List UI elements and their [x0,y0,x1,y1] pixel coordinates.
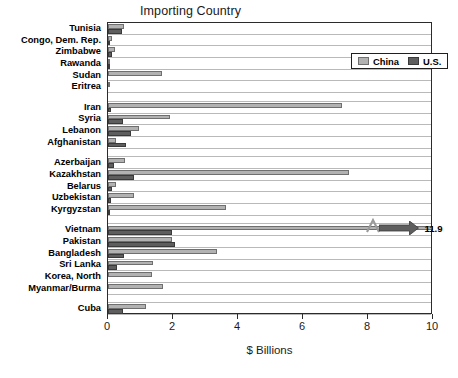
chart-title: Importing Country [140,4,241,18]
y-axis-label: Congo, Dem. Rep. [21,35,101,45]
overflow-value-label: 11.9 [424,223,442,234]
bar-us [108,210,110,215]
y-axis-label: Iran [84,102,101,112]
chart-row [108,204,431,216]
chart-row [108,102,431,114]
chart-row [108,192,431,204]
chart-legend: China U.S. [351,53,448,69]
bar-us [108,230,172,235]
plot-area: 11.9 China U.S. [107,22,432,314]
y-axis-label: Pakistan [63,236,101,246]
bar-chart: Importing Country TunisiaCongo, Dem. Rep… [0,0,458,378]
group-separator [108,149,431,158]
legend-swatch-us [408,57,419,65]
x-axis-tick-label: 2 [169,320,175,332]
x-axis-tick-label: 10 [426,320,438,332]
bar-china [108,71,162,76]
bar-us [108,52,112,57]
x-axis-tick-label: 8 [364,320,370,332]
x-axis: 0246810 [107,314,432,340]
x-axis-tick [237,314,238,319]
group-separator [108,93,431,102]
chart-row [108,248,431,260]
bar-us [108,187,112,192]
x-axis-tick [367,314,368,319]
y-axis-label: Cuba [78,303,101,313]
bar-china [108,82,110,87]
y-axis-label: Kazakhstan [49,169,101,179]
chart-row [108,81,431,93]
bar-us [108,108,111,113]
bar-us [108,175,134,180]
y-axis-label: Myanmar/Burma [28,283,101,293]
chart-row [108,114,431,126]
bar-china [108,284,163,289]
bar-china [108,170,349,175]
x-axis-tick [302,314,303,319]
y-axis-label: Syria [78,113,101,123]
bar-us [108,265,117,270]
x-axis-title: $ Billions [107,344,432,356]
bar-china [108,193,134,198]
bar-china [108,249,217,254]
y-axis-label: Zimbabwe [56,46,101,56]
chart-row: 11.9 [108,224,431,236]
x-axis-tick [107,314,108,319]
bar-us [108,163,114,168]
legend-swatch-china [358,57,369,65]
group-separator [108,216,431,225]
y-axis-label: Rawanda [60,58,101,68]
legend-label-us: U.S. [423,56,441,67]
bar-us [108,29,122,34]
x-axis-tick-label: 0 [104,320,110,332]
y-axis-label: Sri Lanka [59,259,101,269]
y-axis-label: Lebanon [62,125,101,135]
bar-us [108,143,126,148]
y-axis-label: Eritrea [72,81,101,91]
chart-row [108,125,431,137]
bar-us [108,41,110,46]
legend-label-china: China [373,56,399,67]
chart-row [108,283,431,295]
x-axis-tick [172,314,173,319]
bar-us [108,119,123,124]
y-axis-label: Sudan [73,70,101,80]
x-axis-tick-label: 6 [299,320,305,332]
y-axis-category-labels: TunisiaCongo, Dem. Rep.ZimbabweRawandaSu… [0,22,104,314]
y-axis-label: Bangladesh [48,248,101,258]
x-axis-tick-label: 4 [234,320,240,332]
y-axis-label: Uzbekistan [52,192,101,202]
y-axis-label: Kyrgyzstan [51,204,101,214]
chart-row [108,70,431,82]
chart-row [108,35,431,47]
bar-china [108,272,152,277]
bar-us [108,198,111,203]
bar-us [108,242,175,247]
bar-china [108,103,342,108]
y-axis-label: Belarus [67,181,101,191]
y-axis-label: Vietnam [65,224,101,234]
bar-us [108,131,131,136]
bar-us [108,64,110,69]
legend-entry-china: China [358,56,399,67]
x-axis-tick [432,314,433,319]
chart-row [108,181,431,193]
chart-row [108,23,431,35]
chart-row [108,157,431,169]
y-axis-label: Afghanistan [47,137,101,147]
bar-china [108,205,226,210]
legend-entry-us: U.S. [408,56,441,67]
y-axis-label: Azerbaijan [54,157,101,167]
chart-row [108,137,431,149]
y-axis-label: Tunisia [69,23,101,33]
chart-row [108,260,431,272]
chart-row [108,236,431,248]
y-axis-label: Korea, North [45,271,101,281]
chart-row [108,271,431,283]
group-separator [108,295,431,304]
chart-row [108,169,431,181]
bar-us [108,254,124,259]
